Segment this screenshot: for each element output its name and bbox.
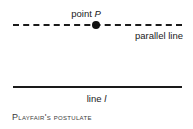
line-l-label-symbol: l <box>104 93 106 104</box>
parallel-line-label: parallel line <box>0 31 183 41</box>
point-p-marker <box>92 21 100 29</box>
playfair-postulate-figure: point P parallel line line l Playfair's … <box>0 0 193 129</box>
line-l-label: line l <box>0 94 193 104</box>
line-l-solid-line <box>13 86 182 88</box>
point-p-label-symbol: P <box>94 8 100 19</box>
figure-caption: Playfair's postulate <box>12 113 92 122</box>
point-p-label-prefix: point <box>71 8 94 19</box>
line-l-label-prefix: line <box>87 93 104 104</box>
point-p-label: point P <box>0 9 172 19</box>
